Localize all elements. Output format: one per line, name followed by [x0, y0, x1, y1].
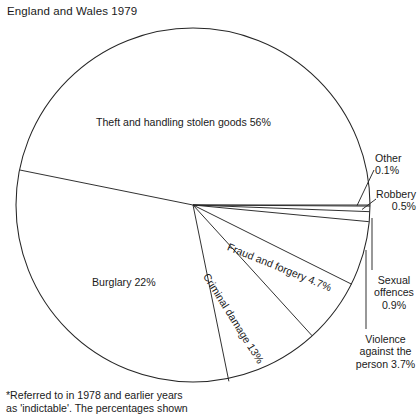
- pie-chart-figure: England and Wales 1979 Theft and handli: [0, 0, 419, 415]
- slice-label-violence: Violence against the person 3.7%: [352, 333, 419, 370]
- leader-line-robbery: [362, 199, 376, 210]
- pie-slices: [16, 28, 370, 382]
- leader-line-other: [357, 170, 374, 206]
- slice-label-burglary: Burglary 22%: [92, 276, 156, 288]
- slice-label-other-name: Other: [375, 152, 402, 164]
- slice-label-robbery: Robbery 0.5%: [376, 188, 416, 213]
- chart-footnote-line-2: as 'indictable'. The percentages shown: [6, 402, 266, 415]
- slice-label-robbery-pct: 0.5%: [376, 200, 416, 212]
- chart-footnote: *Referred to in 1978 and earlier years a…: [6, 389, 266, 414]
- slice-divider-sexual: [193, 205, 369, 222]
- slice-divider-burglary: [20, 170, 193, 205]
- slice-label-theft: Theft and handling stolen goods 56%: [96, 116, 271, 128]
- slice-label-sexual-offences: Sexual offences 0.9%: [369, 274, 419, 311]
- slice-label-other-pct: 0.1%: [375, 164, 402, 176]
- slice-label-robbery-name: Robbery: [376, 188, 416, 200]
- slice-divider-violence: [193, 205, 352, 284]
- slice-label-other: Other 0.1%: [375, 152, 402, 177]
- chart-footnote-line-1: *Referred to in 1978 and earlier years: [6, 389, 266, 402]
